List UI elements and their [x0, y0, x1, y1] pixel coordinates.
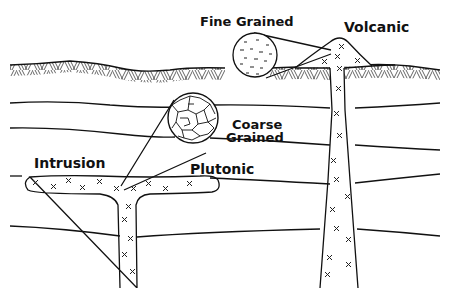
- igneous-rock-diagram: Fine Grained Volcanic Coarse Grained Int…: [0, 0, 450, 288]
- label-volcanic: Volcanic: [344, 19, 409, 35]
- label-plutonic: Plutonic: [190, 161, 254, 177]
- label-intrusion: Intrusion: [34, 155, 105, 171]
- label-grained: Grained: [226, 130, 284, 145]
- plutonic-intrusion: [25, 176, 219, 288]
- surface-soil-layer: [10, 61, 440, 83]
- label-fine-grained: Fine Grained: [200, 14, 294, 29]
